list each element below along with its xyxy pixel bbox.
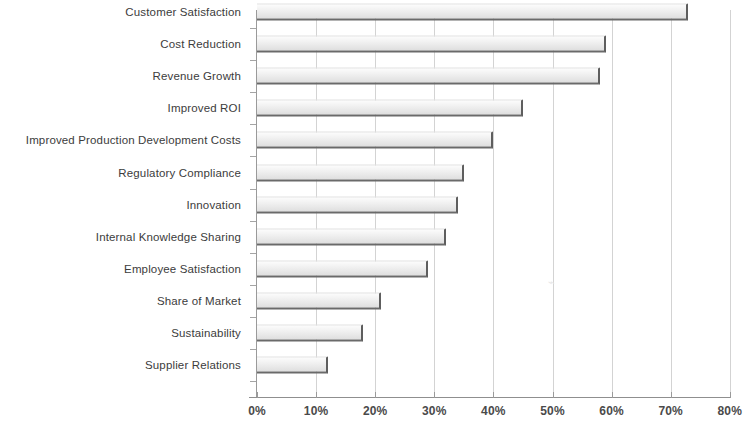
category-label: Revenue Growth <box>0 70 241 83</box>
bar <box>257 100 523 117</box>
x-axis-tick <box>493 392 494 398</box>
x-axis-tick-label: 80% <box>717 404 742 418</box>
category-label: Regulatory Compliance <box>0 166 241 179</box>
plot-area <box>257 10 730 397</box>
y-axis-tick <box>250 156 256 157</box>
x-axis-tick-label: 40% <box>481 404 506 418</box>
y-axis-tick <box>250 285 256 286</box>
x-axis-tick-label: 60% <box>599 404 624 418</box>
bar <box>257 164 464 181</box>
category-label: Supplier Relations <box>0 359 241 372</box>
bar <box>257 36 606 53</box>
x-axis-line <box>249 397 730 398</box>
category-label: Cost Reduction <box>0 38 241 51</box>
x-axis-tick-label: 70% <box>658 404 683 418</box>
x-axis-tick-label: 30% <box>422 404 447 418</box>
bar <box>257 4 688 21</box>
y-axis-tick <box>250 317 256 318</box>
x-axis-tick-label: 20% <box>363 404 388 418</box>
x-axis-tick <box>375 392 376 398</box>
horizontal-bar-chart: Customer SatisfactionCost ReductionReven… <box>0 0 744 428</box>
y-axis-tick <box>250 381 256 382</box>
gridline <box>671 10 672 397</box>
x-axis-tick-label: 0% <box>248 404 266 418</box>
bar <box>257 325 363 342</box>
bar <box>257 292 381 309</box>
bar <box>257 228 446 245</box>
y-axis-tick <box>250 124 256 125</box>
y-axis-tick <box>250 349 256 350</box>
y-axis-line <box>256 10 257 398</box>
y-axis-tick <box>250 253 256 254</box>
x-axis-tick <box>671 392 672 398</box>
category-label: Improved Production Development Costs <box>0 134 241 147</box>
category-label: Innovation <box>0 198 241 211</box>
x-axis-tick-labels: 0%10%20%30%40%50%60%70%80% <box>0 404 744 424</box>
y-axis-tick <box>250 221 256 222</box>
y-axis-tick <box>250 92 256 93</box>
bar <box>257 196 458 213</box>
y-axis-tick <box>250 28 256 29</box>
gridline <box>730 10 731 397</box>
bar <box>257 132 493 149</box>
x-axis-tick-label: 50% <box>540 404 565 418</box>
x-axis-tick <box>434 392 435 398</box>
category-axis-labels: Customer SatisfactionCost ReductionReven… <box>0 0 249 397</box>
category-label: Share of Market <box>0 294 241 307</box>
gridline <box>612 10 613 397</box>
x-axis-tick <box>612 392 613 398</box>
x-axis-tick <box>553 392 554 398</box>
bar <box>257 260 428 277</box>
x-axis-tick <box>730 392 731 398</box>
category-label: Employee Satisfaction <box>0 262 241 275</box>
x-axis-tick-label: 10% <box>304 404 329 418</box>
x-axis-tick <box>257 392 258 398</box>
category-label: Improved ROI <box>0 102 241 115</box>
x-axis-tick <box>316 392 317 398</box>
category-label: Sustainability <box>0 327 241 340</box>
y-axis-tick <box>250 60 256 61</box>
y-axis-tick <box>250 189 256 190</box>
bar <box>257 357 328 374</box>
bar <box>257 68 600 85</box>
category-label: Internal Knowledge Sharing <box>0 230 241 243</box>
category-label: Customer Satisfaction <box>0 6 241 19</box>
